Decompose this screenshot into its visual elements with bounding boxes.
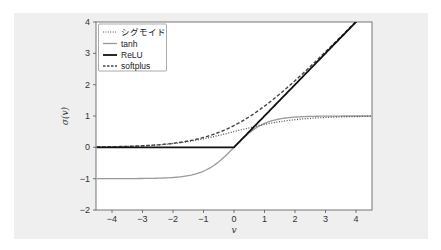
- x-tick-label: 2: [292, 214, 297, 224]
- y-tick-label: 4: [85, 17, 90, 27]
- x-tick-label: −3: [137, 214, 147, 224]
- x-tick-label: 4: [353, 214, 358, 224]
- y-axis-label: σ(v): [60, 106, 70, 125]
- y-tick-label: −1: [80, 174, 90, 184]
- y-tick-label: 0: [85, 142, 90, 152]
- y-tick-label: −2: [80, 205, 90, 215]
- svg-text:softplus: softplus: [121, 61, 150, 71]
- x-tick-label: 3: [323, 214, 328, 224]
- x-tick-label: −1: [198, 214, 208, 224]
- y-axis: 4 3 2 1 0 −1 −2 σ(v): [60, 17, 96, 215]
- svg-text:シグモイド: シグモイド: [121, 27, 166, 37]
- chart-svg: 4 3 2 1 0 −1 −2 σ(v) −4 −3 −2 −1 0 1 2 3…: [0, 0, 441, 250]
- x-axis-label: v: [231, 225, 236, 235]
- legend: シグモイド tanh ReLU softplus: [99, 24, 167, 71]
- x-tick-label: −4: [107, 214, 117, 224]
- x-tick-label: 0: [231, 214, 236, 224]
- y-tick-label: 1: [85, 111, 90, 121]
- x-tick-label: 1: [262, 214, 267, 224]
- svg-text:ReLU: ReLU: [121, 50, 143, 60]
- y-tick-label: 2: [85, 80, 90, 90]
- x-tick-label: −2: [168, 214, 178, 224]
- y-tick-label: 3: [85, 48, 90, 58]
- x-axis: −4 −3 −2 −1 0 1 2 3 4 v: [107, 210, 359, 235]
- svg-text:tanh: tanh: [121, 39, 138, 49]
